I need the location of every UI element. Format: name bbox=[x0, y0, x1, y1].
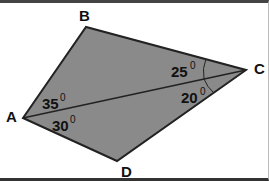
vertex-label-c: C bbox=[254, 60, 265, 77]
degree-sup-a-upper: 0 bbox=[60, 92, 66, 103]
degree-sup-c-lower: 0 bbox=[200, 86, 206, 97]
angle-label-a-upper: 35 bbox=[42, 95, 59, 112]
vertex-label-d: D bbox=[121, 163, 132, 180]
angle-label-c-lower: 20 bbox=[181, 89, 198, 106]
geometry-diagram: A B C D 35 0 30 0 25 0 20 0 bbox=[0, 0, 269, 181]
degree-sup-c-upper: 0 bbox=[190, 60, 196, 71]
vertex-label-a: A bbox=[6, 108, 17, 125]
angle-label-a-lower: 30 bbox=[52, 117, 69, 134]
angle-label-c-upper: 25 bbox=[171, 63, 188, 80]
degree-sup-a-lower: 0 bbox=[70, 114, 76, 125]
vertex-label-b: B bbox=[79, 7, 90, 24]
